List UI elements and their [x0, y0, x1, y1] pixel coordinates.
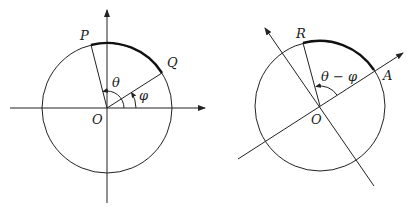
left-radius-op	[91, 45, 107, 108]
label-theta-minus-phi: θ − φ	[321, 69, 358, 84]
label-phi: φ	[139, 88, 149, 103]
left-arc-pq	[91, 43, 162, 73]
right-radius-or	[303, 43, 320, 106]
label-p: P	[79, 28, 89, 43]
diagram-canvas: P Q O θ φ R A O θ − φ	[0, 0, 407, 208]
label-a: A	[382, 68, 392, 83]
right-arc-ra	[303, 41, 374, 70]
label-theta: θ	[112, 75, 120, 90]
label-o-right: O	[311, 112, 322, 127]
label-r: R	[295, 26, 306, 41]
label-q: Q	[167, 55, 178, 70]
left-figure: P Q O θ φ	[10, 10, 205, 203]
right-figure: R A O θ − φ	[238, 26, 403, 186]
label-o-left: O	[92, 112, 103, 127]
right-angle-arc	[316, 86, 337, 95]
left-phi-arc	[132, 93, 137, 109]
